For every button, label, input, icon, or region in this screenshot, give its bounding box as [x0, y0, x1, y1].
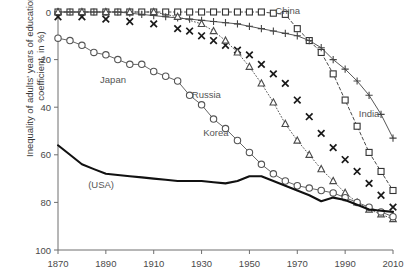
- data-point-cross: [390, 204, 397, 211]
- triangle-marker: [270, 99, 277, 105]
- circle-marker: [162, 73, 168, 79]
- circle-marker: [91, 49, 97, 55]
- series-annotation-korea: Korea: [203, 127, 229, 138]
- data-point-cross: [366, 180, 373, 187]
- square-marker: [199, 9, 205, 15]
- data-point-cross: [318, 130, 325, 137]
- circle-marker: [318, 187, 324, 193]
- plus-marker: [246, 23, 253, 30]
- cross-marker: [366, 180, 373, 187]
- series-annotation-usa: (USA): [88, 179, 114, 190]
- data-point-circle: [210, 116, 216, 122]
- data-point-plus: [389, 135, 396, 142]
- circle-marker: [210, 116, 216, 122]
- data-point-square: [354, 123, 360, 129]
- data-point-circle: [115, 56, 121, 62]
- data-point-circle: [234, 137, 240, 143]
- cross-marker: [354, 168, 361, 175]
- data-point-square: [378, 168, 384, 174]
- data-point-circle: [294, 183, 300, 189]
- square-marker: [378, 168, 384, 174]
- plus-marker: [222, 19, 229, 26]
- triangle-marker: [198, 20, 205, 26]
- plus-marker: [186, 16, 193, 23]
- triangle-marker: [210, 27, 217, 33]
- data-point-circle: [258, 161, 264, 167]
- triangle-marker: [246, 63, 253, 69]
- cross-marker: [330, 144, 337, 151]
- cross-marker: [318, 130, 325, 137]
- data-point-plus: [222, 19, 229, 26]
- data-point-square: [246, 9, 252, 15]
- cross-marker: [306, 113, 313, 120]
- series-annotation-china: China: [275, 5, 301, 16]
- data-point-cross: [198, 33, 205, 40]
- data-point-circle: [79, 42, 85, 48]
- circle-marker: [139, 61, 145, 67]
- data-point-plus: [270, 27, 277, 34]
- data-point-square: [366, 149, 372, 155]
- data-point-circle: [162, 73, 168, 79]
- circle-marker: [282, 178, 288, 184]
- data-point-cross: [282, 80, 289, 87]
- y-tick-label: 0: [46, 7, 51, 18]
- plus-marker: [234, 20, 241, 27]
- data-point-triangle: [306, 151, 313, 157]
- x-tick-label: 2010: [382, 258, 403, 269]
- series-annotation-japan: Japan: [100, 74, 126, 85]
- circle-marker: [151, 68, 157, 74]
- circle-marker: [234, 137, 240, 143]
- chart-figure: Inequality of adults' years of education…: [0, 0, 416, 279]
- circle-marker: [55, 35, 61, 41]
- cross-marker: [186, 28, 193, 35]
- data-point-square: [330, 71, 336, 77]
- data-point-circle: [91, 49, 97, 55]
- series-annotation-russia: Russia: [192, 89, 222, 100]
- series-annotation-india: India: [359, 108, 380, 119]
- cross-marker: [390, 204, 397, 211]
- data-point-plus: [186, 16, 193, 23]
- data-point-square: [390, 188, 396, 194]
- data-point-cross: [174, 25, 181, 32]
- cross-marker: [270, 71, 277, 78]
- triangle-marker: [222, 37, 229, 43]
- data-point-circle: [174, 78, 180, 84]
- circle-marker: [127, 61, 133, 67]
- data-point-triangle: [198, 20, 205, 26]
- circle-marker: [79, 42, 85, 48]
- x-tick-label: 1890: [95, 258, 116, 269]
- square-marker: [354, 123, 360, 129]
- data-point-cross: [294, 97, 301, 104]
- square-marker: [211, 9, 217, 15]
- cross-marker: [246, 52, 253, 59]
- circle-marker: [103, 52, 109, 58]
- data-point-circle: [246, 149, 252, 155]
- cross-marker: [198, 33, 205, 40]
- cross-marker: [210, 37, 217, 44]
- y-tick-label: 20: [40, 54, 51, 65]
- square-marker: [258, 9, 264, 15]
- data-point-cross: [342, 156, 349, 163]
- data-point-plus: [234, 20, 241, 27]
- data-point-square: [234, 9, 240, 15]
- data-point-square: [199, 9, 205, 15]
- circle-marker: [294, 183, 300, 189]
- data-point-plus: [210, 18, 217, 25]
- data-point-cross: [258, 61, 265, 68]
- cross-marker: [378, 192, 385, 199]
- square-marker: [234, 9, 240, 15]
- cross-marker: [126, 18, 133, 25]
- data-point-cross: [246, 52, 253, 59]
- data-point-circle: [67, 37, 73, 43]
- data-point-square: [187, 9, 193, 15]
- square-marker: [223, 9, 229, 15]
- data-point-cross: [126, 18, 133, 25]
- data-point-cross: [150, 21, 157, 28]
- circle-marker: [246, 149, 252, 155]
- data-point-circle: [330, 190, 336, 196]
- data-point-circle: [282, 178, 288, 184]
- x-tick-label: 1930: [191, 258, 212, 269]
- circle-marker: [174, 78, 180, 84]
- circle-marker: [115, 56, 121, 62]
- data-point-square: [342, 97, 348, 103]
